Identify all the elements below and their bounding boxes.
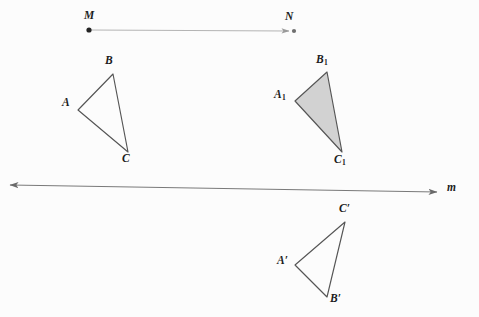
label-vertex-c1-a1b1c1: C1 <box>334 154 345 166</box>
point-m-dot <box>86 27 91 32</box>
label-vertex-a-prime-aprime: A′ <box>277 255 288 267</box>
label-vertex-b1-a1b1c1: B1 <box>316 54 327 66</box>
triangle-a-prime-b-prime-c-prime-shape <box>295 222 345 297</box>
label-vertex-a-abc: A <box>62 97 70 109</box>
label-vertex-c-abc: C <box>122 153 130 165</box>
triangle-abc-shape <box>78 74 128 152</box>
mirror-line-m <box>10 185 437 192</box>
label-point-m: M <box>84 10 94 22</box>
label-line-m: m <box>447 182 456 194</box>
label-vertex-b-abc: B <box>105 55 113 67</box>
label-vertex-c-prime-aprime: C′ <box>339 203 350 215</box>
vector-mn-group <box>86 27 296 33</box>
label-vertex-a1-a1b1c1: A1 <box>274 89 285 101</box>
triangle-a1b1c1-shape <box>295 72 342 152</box>
label-point-n: N <box>285 11 293 23</box>
vector-mn-line <box>89 30 289 31</box>
label-vertex-b-prime-aprime: B′ <box>330 293 341 305</box>
figure-canvas <box>0 0 479 317</box>
point-n-dot <box>292 29 296 33</box>
geometry-figure: M N m ABCA1B1C1A′B′C′ <box>0 0 479 317</box>
